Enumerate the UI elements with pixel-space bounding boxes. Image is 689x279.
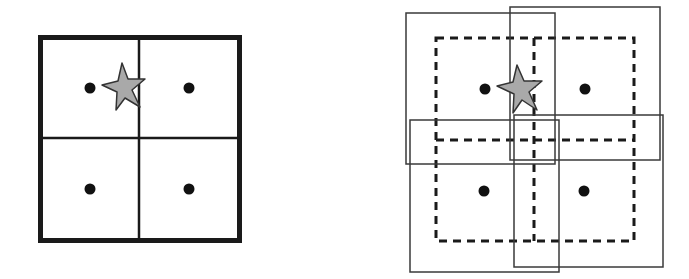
right-overlap-panel [406,7,663,272]
cell-center-dot [85,83,96,94]
cell-center-dot [479,186,490,197]
cell-center-dot [184,184,195,195]
cell-center-dot [579,186,590,197]
cell-center-dot [480,84,491,95]
cell-center-dot [580,84,591,95]
diagram-canvas [0,0,689,279]
left-grid-panel [41,38,240,241]
cell-center-dot [85,184,96,195]
cell-center-dot [184,83,195,94]
